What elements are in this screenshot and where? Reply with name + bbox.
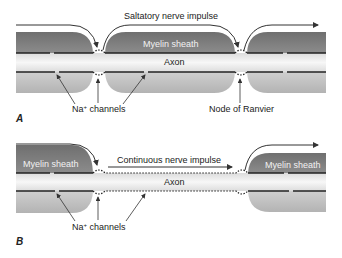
na-channels-label-b: Na+ channels bbox=[72, 222, 126, 232]
myelin-sheath-a-left-bottom bbox=[16, 72, 93, 93]
myelin-sheath-a-left-top bbox=[16, 32, 93, 53]
myelin-sheath-a-middle-bottom bbox=[105, 72, 235, 93]
saltatory-impulse-label: Saltatory nerve impulse bbox=[124, 11, 218, 21]
myelin-sheath-b-right-bottom bbox=[248, 191, 326, 212]
axon-label-a: Axon bbox=[164, 57, 185, 67]
myelin-sheath-b-left-bottom bbox=[16, 191, 93, 213]
panel-letter-b: B bbox=[16, 236, 23, 247]
myelin-sheath-label-b-right: Myelin sheath bbox=[265, 160, 321, 170]
continuous-impulse-label: Continuous nerve impulse bbox=[117, 155, 221, 165]
node-of-ranvier-label: Node of Ranvier bbox=[209, 104, 274, 114]
myelin-sheath-label-b-left: Myelin sheath bbox=[23, 159, 79, 169]
myelin-sheath-a-right-top bbox=[247, 32, 326, 53]
na-channels-label-a: Na+ channels bbox=[72, 104, 126, 114]
myelin-sheath-a-right-bottom bbox=[247, 72, 326, 93]
panel-letter-a: A bbox=[16, 113, 23, 124]
myelin-sheath-label-a: Myelin sheath bbox=[143, 39, 199, 49]
axon-label-b: Axon bbox=[164, 177, 185, 187]
